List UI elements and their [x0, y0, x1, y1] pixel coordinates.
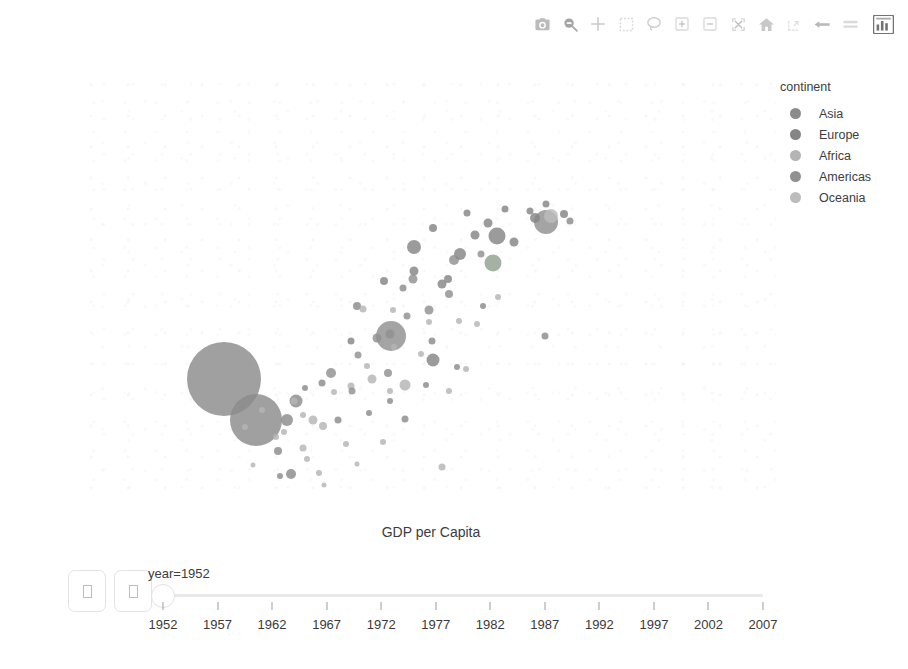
plotly-logo-icon[interactable] [870, 13, 896, 35]
zoom-icon[interactable] [556, 11, 584, 37]
scatter-bubble[interactable] [542, 201, 549, 208]
scatter-bubble[interactable] [454, 364, 460, 370]
scatter-bubble[interactable] [354, 461, 359, 466]
scatter-bubble[interactable] [449, 255, 459, 265]
scatter-bubble[interactable] [544, 209, 558, 223]
scatter-bubble[interactable] [483, 219, 492, 228]
play-button[interactable] [68, 570, 106, 612]
scatter-bubble[interactable] [319, 422, 327, 430]
scatter-bubble[interactable] [463, 366, 469, 372]
reset-axes-icon[interactable] [752, 11, 780, 37]
slider-tick-label[interactable]: 1992 [585, 617, 614, 632]
scatter-bubble[interactable] [273, 434, 279, 440]
slider-tick-label[interactable]: 1987 [530, 617, 559, 632]
download-plot-icon[interactable] [528, 11, 556, 37]
slider-tick-label[interactable]: 1957 [203, 617, 232, 632]
scatter-bubble[interactable] [510, 237, 519, 246]
scatter-bubble[interactable] [277, 473, 283, 479]
scatter-bubble[interactable] [391, 344, 397, 350]
scatter-bubble[interactable] [291, 398, 298, 405]
scatter-bubble[interactable] [316, 470, 322, 476]
scatter-bubble[interactable] [387, 398, 393, 404]
lasso-select-icon[interactable] [640, 11, 668, 37]
legend-item-americas[interactable]: Americas [782, 166, 902, 187]
scatter-bubble[interactable] [250, 462, 255, 467]
scatter-bubble[interactable] [502, 206, 509, 213]
scatter-bubble[interactable] [304, 456, 310, 462]
scatter-bubble[interactable] [372, 334, 381, 343]
scatter-bubble[interactable] [426, 354, 439, 367]
toggle-spike-lines-icon[interactable] [780, 11, 808, 37]
scatter-bubble[interactable] [400, 379, 411, 390]
scatter-bubble[interactable] [425, 305, 434, 314]
scatter-bubble[interactable] [335, 417, 342, 424]
scatter-bubble[interactable] [380, 277, 388, 285]
scatter-bubble[interactable] [474, 321, 480, 327]
scatter-bubble[interactable] [367, 374, 376, 383]
scatter-bubble[interactable] [347, 338, 354, 345]
scatter-bubble[interactable] [281, 414, 293, 426]
scatter-bubble[interactable] [530, 213, 540, 223]
plotly-modebar[interactable] [528, 10, 896, 38]
scatter-bubble[interactable] [445, 290, 453, 298]
slider-tick-label[interactable]: 2007 [749, 617, 778, 632]
zoom-in-icon[interactable] [668, 11, 696, 37]
scatter-bubble[interactable] [471, 231, 480, 240]
slider-tick-label[interactable]: 1972 [367, 617, 396, 632]
scatter-bubble[interactable] [360, 305, 367, 312]
slider-tick-label[interactable]: 1967 [312, 617, 341, 632]
scatter-bubble[interactable] [366, 410, 372, 416]
slider-tick-label[interactable]: 1982 [476, 617, 505, 632]
slider-tick-label[interactable]: 1977 [421, 617, 450, 632]
scatter-bubble[interactable] [423, 382, 429, 388]
scatter-bubble[interactable] [387, 388, 393, 394]
scatter-bubble[interactable] [321, 483, 326, 488]
scatter-bubble[interactable] [300, 412, 306, 418]
scatter-bubble[interactable] [300, 444, 307, 451]
scatter-bubble[interactable] [331, 389, 337, 395]
scatter-bubble[interactable] [274, 447, 282, 455]
scatter-bubble[interactable] [444, 275, 452, 283]
legend-item-africa[interactable]: Africa [782, 145, 902, 166]
zoom-out-icon[interactable] [696, 11, 724, 37]
scatter-bubble[interactable] [302, 385, 308, 391]
scatter-bubble[interactable] [286, 469, 296, 479]
scatter-bubble[interactable] [364, 363, 370, 369]
scatter-bubble[interactable] [319, 379, 326, 386]
scatter-bubble[interactable] [309, 415, 318, 424]
slider-tick-label[interactable]: 1997 [639, 617, 668, 632]
scatter-bubble[interactable] [428, 338, 435, 345]
legend-item-oceania[interactable]: Oceania [782, 187, 902, 208]
scatter-bubble[interactable] [418, 351, 424, 357]
slider-tick-label[interactable]: 1962 [258, 617, 287, 632]
scatter-bubble[interactable] [495, 294, 501, 300]
hover-compare-icon[interactable] [836, 11, 864, 37]
scatter-bubble[interactable] [407, 240, 421, 254]
scatter-bubble[interactable] [456, 318, 462, 324]
box-select-icon[interactable] [612, 11, 640, 37]
scatter-bubble[interactable] [403, 313, 410, 320]
slider-tick-label[interactable]: 1952 [149, 617, 178, 632]
scatter-bubble[interactable] [326, 368, 336, 378]
pause-button[interactable] [114, 570, 152, 612]
scatter-bubble[interactable] [409, 274, 418, 283]
scatter-bubble[interactable] [438, 463, 445, 470]
scatter-bubble[interactable] [485, 254, 502, 271]
scatter-bubble[interactable] [463, 210, 470, 217]
scatter-bubble[interactable] [566, 217, 573, 224]
scatter-bubble[interactable] [380, 439, 386, 445]
hover-closest-icon[interactable] [808, 11, 836, 37]
plot-canvas[interactable]: 30405060708090 1002510002510k25100k [86, 78, 776, 498]
scatter-bubble[interactable] [402, 416, 409, 423]
scatter-bubble[interactable] [429, 224, 437, 232]
scatter-bubble[interactable] [489, 227, 506, 244]
scatter-bubble[interactable] [400, 285, 407, 292]
scatter-bubble[interactable] [343, 441, 349, 447]
scatter-bubble[interactable] [426, 319, 432, 325]
scatter-bubble[interactable] [480, 303, 486, 309]
scatter-bubble[interactable] [242, 424, 248, 430]
pan-icon[interactable] [584, 11, 612, 37]
scatter-bubble[interactable] [348, 388, 355, 395]
autoscale-icon[interactable] [724, 11, 752, 37]
slider-tick-label[interactable]: 2002 [694, 617, 723, 632]
